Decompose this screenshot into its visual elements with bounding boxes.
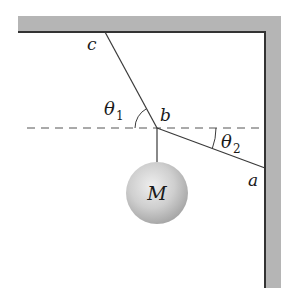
point-c-label: c <box>87 34 97 54</box>
point-b-label: b <box>160 105 171 125</box>
theta1-arc <box>135 109 147 128</box>
theta1-symbol: θ <box>104 98 115 119</box>
ceiling <box>18 16 281 32</box>
diagram-canvas: M c b a θ 1 θ 2 <box>0 0 290 299</box>
ceiling-fill <box>18 16 281 32</box>
mass-label: M <box>146 182 167 204</box>
wall-fill <box>265 16 281 288</box>
rope-ba <box>157 128 265 168</box>
theta1-label: θ 1 <box>104 98 124 123</box>
theta2-arc <box>212 128 216 149</box>
theta2-symbol: θ <box>221 131 232 152</box>
theta1-subscript: 1 <box>116 109 124 123</box>
theta2-subscript: 2 <box>233 142 241 156</box>
right-wall <box>265 16 281 288</box>
mass: M <box>126 162 188 224</box>
point-a-label: a <box>248 170 258 190</box>
